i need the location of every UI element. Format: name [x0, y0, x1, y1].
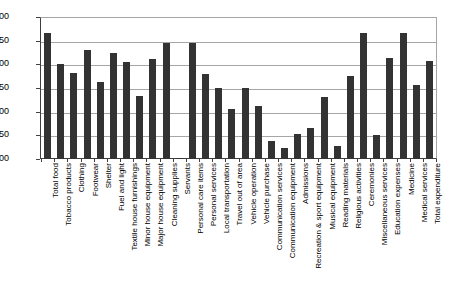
- x-tick-mark: [331, 159, 332, 162]
- bar: [136, 96, 143, 159]
- x-tick-label: Admissions: [301, 163, 310, 293]
- x-tick-label: Cleaning supplies: [170, 163, 179, 293]
- bar: [149, 59, 156, 159]
- x-tick-mark: [436, 159, 437, 162]
- x-tick-label: Personal services: [209, 163, 218, 293]
- bar: [189, 43, 196, 159]
- x-tick-mark: [410, 159, 411, 162]
- x-tick-label: Ceremonies: [367, 163, 376, 293]
- x-tick-label: Footwear: [91, 163, 100, 293]
- bar: [386, 58, 393, 159]
- bar: [163, 43, 170, 159]
- x-tick-label: Communication equipment: [288, 163, 297, 293]
- x-tick-mark: [225, 159, 226, 162]
- x-tick-mark: [357, 159, 358, 162]
- y-tick-label-text: 3.00: [0, 11, 9, 21]
- x-tick-label: Education expenses: [393, 163, 402, 293]
- x-tick-mark: [252, 159, 253, 162]
- x-tick-mark: [304, 159, 305, 162]
- x-tick-label: Medicine: [407, 163, 416, 293]
- x-tick-label: Reading materials: [341, 163, 350, 293]
- x-tick-label: Medical services: [420, 163, 429, 293]
- x-tick-mark: [344, 159, 345, 162]
- bar: [84, 50, 91, 159]
- x-tick-label: Total expenditure: [433, 163, 442, 293]
- x-tick-mark: [397, 159, 398, 162]
- y-tick-label-text: 2.00: [0, 58, 9, 68]
- y-tick-label-text: 0.00: [0, 153, 9, 163]
- bar: [334, 146, 341, 159]
- x-tick-label: Travel out of area: [235, 163, 244, 293]
- x-tick-label: Communication services: [275, 163, 284, 293]
- x-tick-mark: [173, 159, 174, 162]
- bar: [347, 76, 354, 159]
- bar: [360, 33, 367, 159]
- bar: [202, 74, 209, 159]
- bar: [255, 106, 262, 159]
- x-tick-mark: [67, 159, 68, 162]
- x-tick-mark: [370, 159, 371, 162]
- y-tick-label-text: 0.50: [0, 129, 9, 139]
- bar: [400, 33, 407, 159]
- bar: [70, 73, 77, 159]
- bar: [242, 88, 249, 159]
- bar: [123, 62, 130, 159]
- bar: [281, 148, 288, 159]
- y-tick-label-text: 2.50: [0, 35, 9, 45]
- bar: [321, 97, 328, 159]
- x-tick-label: Major house equipment: [156, 163, 165, 293]
- bar: [110, 53, 117, 159]
- x-tick-label: Personal care items: [196, 163, 205, 293]
- bar: [228, 109, 235, 159]
- x-tick-label: Fuel and light: [117, 163, 126, 293]
- bar: [294, 134, 301, 159]
- x-tick-mark: [120, 159, 121, 162]
- x-tick-mark: [383, 159, 384, 162]
- x-tick-mark: [291, 159, 292, 162]
- x-tick-mark: [94, 159, 95, 162]
- x-tick-mark: [160, 159, 161, 162]
- x-tick-mark: [107, 159, 108, 162]
- x-axis-labels: Total foodTobacco productsClothingFootwe…: [41, 163, 436, 296]
- x-tick-label: Servants: [183, 163, 192, 293]
- x-tick-mark: [199, 159, 200, 162]
- x-tick-label: Vehicle purchase: [262, 163, 271, 293]
- x-tick-label: Total food: [51, 163, 60, 293]
- x-tick-label: Tobacco products: [64, 163, 73, 293]
- x-tick-mark: [146, 159, 147, 162]
- x-tick-mark: [318, 159, 319, 162]
- x-tick-label: Minor house equipment: [143, 163, 152, 293]
- x-tick-mark: [133, 159, 134, 162]
- bar: [413, 85, 420, 159]
- y-tick-mark: [36, 159, 40, 160]
- x-tick-label: Clothing: [77, 163, 86, 293]
- x-tick-mark: [212, 159, 213, 162]
- x-tick-mark: [81, 159, 82, 162]
- x-tick-mark: [186, 159, 187, 162]
- x-tick-label: Musical equipment: [328, 163, 337, 293]
- bar: [57, 64, 64, 159]
- x-tick-mark: [54, 159, 55, 162]
- x-tick-mark: [278, 159, 279, 162]
- x-tick-label: Textile house furnishings: [130, 163, 139, 293]
- bar: [307, 128, 314, 159]
- y-tick-label-text: 1.00: [0, 106, 9, 116]
- bar: [268, 141, 275, 159]
- bars-layer: [41, 17, 436, 159]
- bar-chart: 3.002.502.001.501.000.500.00 Total foodT…: [0, 0, 453, 296]
- x-tick-label: Vehicle operation: [249, 163, 258, 293]
- x-tick-label: Recreation & sport equipment: [314, 163, 323, 293]
- x-tick-label: Local transportation: [222, 163, 231, 293]
- x-tick-mark: [41, 159, 42, 162]
- x-tick-label: Miscellaneous services: [380, 163, 389, 293]
- x-tick-label: Religious activities: [354, 163, 363, 293]
- x-tick-label: Shelter: [104, 163, 113, 293]
- x-tick-mark: [423, 159, 424, 162]
- y-tick-label-text: 1.50: [0, 82, 9, 92]
- bar: [44, 33, 51, 159]
- bar: [215, 88, 222, 159]
- x-tick-mark: [239, 159, 240, 162]
- bar: [426, 61, 433, 159]
- bar: [97, 82, 104, 159]
- bar: [373, 135, 380, 159]
